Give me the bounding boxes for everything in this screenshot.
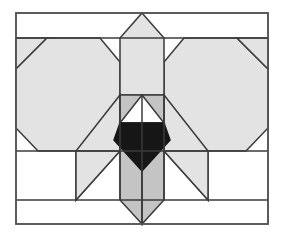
- tiling-figure: [0, 0, 284, 236]
- tiling-canvas: [0, 0, 284, 236]
